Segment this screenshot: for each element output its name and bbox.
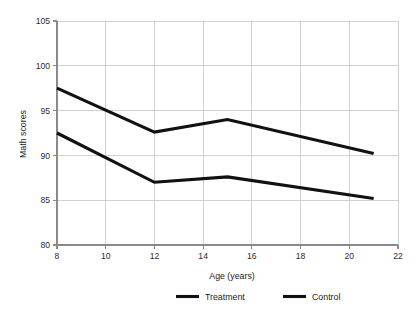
x-tick-label: 18 (296, 251, 306, 261)
legend-label-treatment: Treatment (205, 292, 245, 302)
chart-canvas: 80859095100105 810121416182022 Age (year… (0, 0, 420, 318)
x-axis-ticks (57, 245, 398, 249)
legend-label-control: Control (312, 292, 340, 302)
y-axis: 80859095100105 (36, 16, 57, 250)
x-axis-title: Age (years) (209, 271, 255, 281)
y-axis-ticks (53, 21, 57, 245)
plot-series (57, 88, 374, 198)
y-tick-label: 90 (40, 151, 50, 161)
x-tick-label: 20 (345, 251, 355, 261)
y-axis-title: Math scores (18, 109, 28, 158)
y-tick-label: 85 (40, 195, 50, 205)
x-tick-label: 14 (198, 251, 208, 261)
y-tick-label: 100 (36, 61, 51, 71)
x-tick-label: 16 (247, 251, 257, 261)
y-tick-label: 105 (36, 16, 51, 26)
grid-lines-vertical (106, 21, 398, 245)
x-tick-label: 10 (101, 251, 111, 261)
chart-legend: TreatmentControl (176, 292, 340, 302)
x-axis-tick-labels: 810121416182022 (55, 251, 403, 261)
series-line-treatment (57, 88, 374, 153)
x-tick-label: 22 (393, 251, 403, 261)
x-tick-label: 12 (150, 251, 160, 261)
y-tick-label: 80 (40, 240, 50, 250)
y-tick-label: 95 (40, 106, 50, 116)
math-scores-line-chart: 80859095100105 810121416182022 Age (year… (0, 0, 420, 318)
y-axis-tick-labels: 80859095100105 (36, 16, 51, 250)
x-tick-label: 8 (55, 251, 60, 261)
x-axis: 810121416182022 (55, 245, 403, 261)
